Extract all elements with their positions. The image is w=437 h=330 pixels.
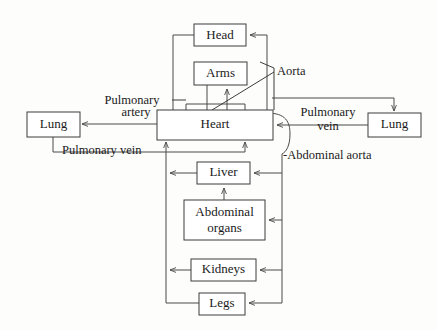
node-head-label: Head [206, 27, 234, 42]
vessel-aorta-arch [267, 113, 290, 303]
node-abdominal-organs-label-line2: organs [207, 220, 241, 235]
node-heart[interactable]: Heart [157, 110, 273, 140]
node-liver-label: Liver [209, 164, 238, 179]
node-legs[interactable]: Legs [199, 293, 245, 315]
abdominal-aorta-label: -Abdominal aorta [283, 148, 372, 162]
pulmonary-vein-right-label-line2: vein [317, 119, 339, 133]
node-kidneys[interactable]: Kidneys [191, 259, 256, 281]
vessel-aorta-to-head [250, 35, 267, 110]
node-legs-label: Legs [209, 295, 234, 310]
pulmonary-vein-right-label-line1: Pulmonary [301, 105, 357, 119]
circulatory-system-diagram: Head Arms Heart Lung Lung Liver Abdomina… [0, 0, 437, 330]
node-kidneys-label: Kidneys [202, 261, 245, 276]
node-heart-label: Heart [201, 116, 230, 131]
node-lung-right[interactable]: Lung [368, 113, 421, 137]
node-head[interactable]: Head [194, 24, 246, 46]
pulmonary-artery-label-line2: artery [121, 105, 151, 119]
diagram-canvas: Head Arms Heart Lung Lung Liver Abdomina… [0, 0, 437, 330]
node-liver[interactable]: Liver [197, 162, 250, 184]
node-abdominal-organs-label-line1: Abdominal [195, 204, 254, 219]
node-lung-right-label: Lung [381, 116, 409, 131]
aorta-label: Aorta [277, 64, 306, 78]
node-lung-left-label: Lung [40, 116, 68, 131]
node-abdominal-organs[interactable]: Abdominal organs [184, 200, 265, 240]
node-lung-left[interactable]: Lung [27, 112, 80, 137]
node-arms[interactable]: Arms [194, 62, 247, 85]
node-arms-label: Arms [206, 65, 235, 80]
pulmonary-vein-left-label: Pulmonary vein [62, 143, 142, 157]
